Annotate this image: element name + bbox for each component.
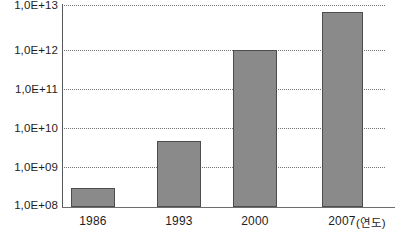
x-tick-label-2000: 2000 bbox=[233, 214, 277, 228]
y-axis-line bbox=[62, 4, 63, 208]
gridline-1e13 bbox=[62, 5, 385, 6]
y-tick-label-1e09: 1,0E+09 bbox=[14, 161, 58, 173]
y-tick-label-1e11: 1,0E+11 bbox=[15, 83, 58, 95]
bar-chart: 1,0E+13 1,0E+12 1,0E+11 1,0E+10 1,0E+09 … bbox=[0, 0, 404, 249]
y-tick-label-1e12: 1,0E+12 bbox=[14, 44, 58, 56]
x-tick-label-1986: 1986 bbox=[71, 214, 115, 228]
x-axis-line bbox=[62, 207, 395, 208]
y-tick-label-1e08: 1,0E+08 bbox=[14, 199, 58, 211]
bar-1993 bbox=[157, 141, 201, 207]
x-axis-title: (연도) bbox=[356, 214, 386, 230]
y-tick-label-1e13: 1,0E+13 bbox=[14, 0, 58, 11]
x-tick-label-1993: 1993 bbox=[157, 214, 201, 228]
bar-2000 bbox=[233, 50, 277, 207]
bar-1986 bbox=[71, 188, 115, 207]
bar-2007 bbox=[322, 12, 363, 207]
y-tick-label-1e10: 1,0E+10 bbox=[14, 122, 58, 134]
